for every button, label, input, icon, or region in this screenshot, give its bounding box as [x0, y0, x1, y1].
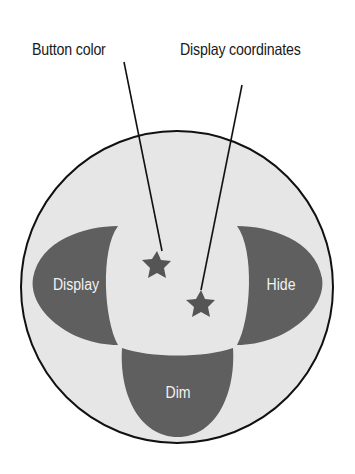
callout-label-button-color: Button color: [32, 40, 106, 59]
callout-label-display-coordinates: Display coordinates: [180, 40, 301, 59]
interaction-zone-diagram: Button color Display coordinates Display…: [0, 0, 355, 474]
zone-label-dim: Dim: [165, 384, 190, 402]
zone-label-hide: Hide: [267, 276, 296, 294]
zone-label-display: Display: [53, 276, 99, 294]
